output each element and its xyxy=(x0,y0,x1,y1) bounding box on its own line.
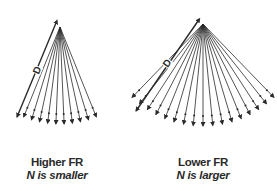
ray-marker xyxy=(33,109,35,111)
ray-arrow xyxy=(60,27,89,120)
ray-marker xyxy=(237,108,239,110)
ray-marker xyxy=(48,112,50,114)
left-caption: Higher FR N is smaller xyxy=(2,156,112,182)
ray-marker xyxy=(41,111,43,113)
ray-marker xyxy=(202,115,204,117)
lower-fr-fan: D xyxy=(132,21,274,126)
ray-marker xyxy=(252,100,254,102)
ray-marker xyxy=(176,111,178,113)
ray-marker xyxy=(70,112,72,114)
ray-marker xyxy=(245,105,247,107)
higher-fr-fan: D xyxy=(17,23,96,124)
ray-arrow xyxy=(203,24,241,119)
ray-marker xyxy=(220,113,222,115)
right-caption: Lower FR N is larger xyxy=(148,156,258,182)
ray-marker xyxy=(55,113,57,115)
ray-arrow xyxy=(165,24,203,119)
left-caption-subtitle: N is smaller xyxy=(2,169,112,182)
ray-marker xyxy=(77,111,79,113)
ray-arrow xyxy=(203,24,267,104)
ray-marker xyxy=(138,89,140,91)
ray-marker xyxy=(26,107,28,109)
ray-marker xyxy=(228,111,230,113)
ray-marker xyxy=(193,115,195,117)
ray-marker xyxy=(160,105,162,107)
ray-marker xyxy=(184,113,186,115)
ray-marker xyxy=(92,107,94,109)
ray-marker xyxy=(168,108,170,110)
ray-marker xyxy=(211,115,213,117)
right-caption-subtitle: N is larger xyxy=(148,169,258,182)
ray-marker xyxy=(152,100,154,102)
ray-marker xyxy=(259,95,261,97)
right-caption-title: Lower FR xyxy=(148,156,258,169)
ray-marker xyxy=(266,89,268,91)
ray-marker xyxy=(63,113,65,115)
left-caption-title: Higher FR xyxy=(2,156,112,169)
ray-marker xyxy=(85,109,87,111)
